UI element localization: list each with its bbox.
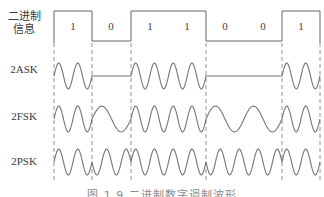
bit-6: 1 bbox=[298, 20, 304, 32]
bit-4: 0 bbox=[222, 20, 228, 32]
bit-0: 1 bbox=[70, 20, 76, 32]
bit-5: 0 bbox=[260, 20, 266, 32]
modulation-waveform-diagram: 1 0 1 1 0 0 1 bbox=[0, 0, 324, 197]
figure-caption: 图 1.9 二进制数字调制波形 bbox=[0, 186, 324, 197]
psk-waveform bbox=[54, 149, 320, 175]
bit-3: 1 bbox=[184, 20, 190, 32]
bit-boundary-dashed-lines bbox=[54, 43, 320, 180]
bit-values: 1 0 1 1 0 0 1 bbox=[70, 20, 304, 32]
bit-1: 0 bbox=[108, 20, 114, 32]
bit-2: 1 bbox=[147, 20, 153, 32]
fsk-waveform bbox=[54, 106, 320, 132]
ask-waveform bbox=[54, 63, 320, 89]
